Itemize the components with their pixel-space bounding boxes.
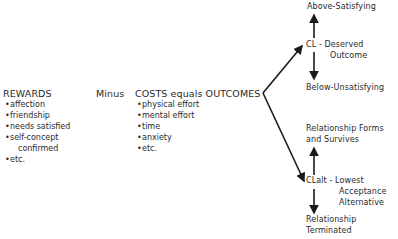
clalt-node-sublabel-1: Acceptance <box>339 187 387 197</box>
list-item: •anxiety <box>137 132 199 143</box>
cl-node-sublabel: Outcome <box>330 51 367 61</box>
list-item: •etc. <box>5 154 70 165</box>
list-item: •time <box>137 121 199 132</box>
list-item: •friendship <box>5 110 70 121</box>
costs-title: COSTS equals OUTCOMES <box>135 88 260 99</box>
list-item: •self-concept <box>5 132 70 143</box>
below-unsatisfying-label: Below-Unsatisfying <box>306 83 384 93</box>
relationship-forms-label: Relationship Forms <box>306 124 384 134</box>
relationship-terminated-label: Relationship <box>306 215 356 225</box>
clalt-node-label: CLalt - Lowest <box>306 176 364 186</box>
arrow-to-cl <box>263 46 302 93</box>
rewards-title: REWARDS <box>3 88 52 99</box>
costs-list: •physical effort •mental effort •time •a… <box>137 99 199 154</box>
relationship-forms-sublabel: and Survives <box>306 135 359 145</box>
arrow-to-clalt <box>263 93 304 181</box>
minus-label: Minus <box>96 88 124 99</box>
clalt-node-sublabel-2: Alternative <box>339 198 384 208</box>
list-item: •affection <box>5 99 70 110</box>
list-item-continuation: confirmed <box>5 143 70 154</box>
list-item: •needs satisfied <box>5 121 70 132</box>
list-item: •etc. <box>137 143 199 154</box>
above-satisfying-label: Above-Satisfying <box>307 2 376 12</box>
cl-node-label: CL - Deserved <box>306 40 364 50</box>
rewards-list: •affection •friendship •needs satisfied … <box>5 99 70 165</box>
relationship-terminated-sublabel: Terminated <box>306 226 352 236</box>
list-item: •mental effort <box>137 110 199 121</box>
list-item: •physical effort <box>137 99 199 110</box>
